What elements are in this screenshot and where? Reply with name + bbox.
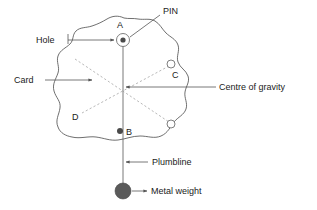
point-label-d: D [72, 112, 79, 122]
point-label-b: B [126, 127, 132, 137]
dashed-line-c-to-d [82, 66, 169, 113]
dashed-line-upperleft-to-lowerright [75, 59, 169, 122]
hole-circle-lower-right [167, 120, 175, 128]
centre-of-gravity-diagram: A B C D PIN Hole Card Centre of gravity … [0, 0, 317, 210]
pin-center-dot [120, 37, 125, 42]
callout-label-card: Card [14, 75, 34, 85]
callout-label-plumbline: Plumbline [152, 157, 192, 167]
hole-circle-c [167, 60, 175, 68]
point-label-c: C [172, 70, 179, 80]
point-b-dot [117, 128, 123, 134]
diagram-canvas: A B C D PIN Hole Card Centre of gravity … [0, 0, 317, 210]
callout-label-metal-weight: Metal weight [151, 186, 202, 196]
callout-label-pin: PIN [163, 6, 178, 16]
callout-label-hole: Hole [36, 35, 55, 45]
point-label-a: A [117, 20, 123, 30]
callout-label-centre-of-gravity: Centre of gravity [219, 82, 286, 92]
metal-weight-bob [115, 183, 131, 199]
